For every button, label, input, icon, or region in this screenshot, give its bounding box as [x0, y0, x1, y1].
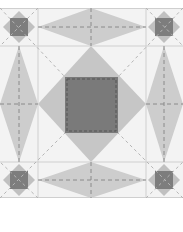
quilt-block-diagram — [0, 8, 183, 198]
center-square — [65, 77, 118, 133]
